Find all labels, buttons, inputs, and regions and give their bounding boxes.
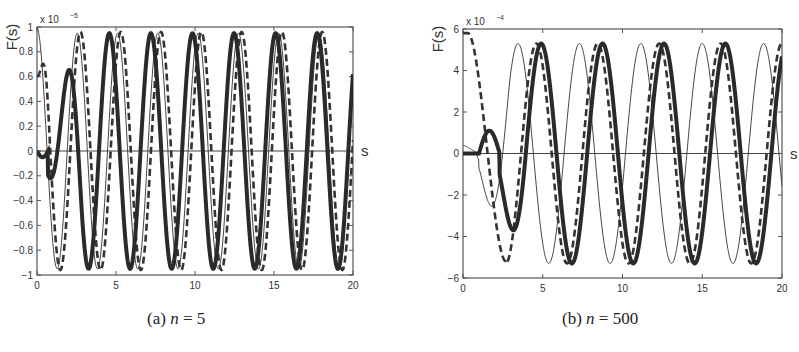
- y-multiplier: x 10: [40, 14, 59, 25]
- chart-panel-a: 05101520−1−0.8−0.6−0.4−0.200.20.40.60.81…: [0, 0, 400, 300]
- x-tick-label: 0: [460, 283, 466, 294]
- y-exponent: −5: [70, 12, 78, 19]
- y-tick-label: −0.2: [13, 170, 33, 181]
- plot-a: 05101520−1−0.8−0.6−0.4−0.200.20.40.60.81…: [0, 0, 400, 300]
- x-axis-label: s: [361, 142, 369, 159]
- y-tick-label: 0.2: [19, 121, 33, 132]
- x-tick-label: 15: [697, 283, 709, 294]
- y-tick-label: −1: [22, 270, 34, 281]
- y-tick-label: 6: [453, 24, 459, 35]
- caption-b: (b) n = 500: [562, 309, 638, 329]
- x-tick-label: 20: [776, 283, 788, 294]
- y-tick-label: 1: [27, 22, 33, 33]
- y-tick-label: 0.4: [19, 96, 33, 107]
- y-tick-label: −4: [448, 231, 460, 242]
- y-tick-label: 2: [453, 107, 459, 118]
- y-tick-label: −2: [448, 190, 460, 201]
- y-tick-label: 0.8: [19, 46, 33, 57]
- y-tick-label: −6: [448, 273, 460, 284]
- y-tick-label: −0.4: [13, 195, 33, 206]
- x-tick-label: 15: [268, 280, 280, 291]
- chart-panel-b: 05101520−6−4−20246sF(s)x 10−4: [400, 0, 799, 300]
- x-axis-label: s: [790, 145, 798, 162]
- y-multiplier: x 10: [466, 16, 485, 27]
- x-tick-label: 5: [113, 280, 119, 291]
- y-tick-label: −0.8: [13, 245, 33, 256]
- caption-a: (a) n = 5: [147, 309, 205, 329]
- y-exponent: −4: [496, 14, 504, 21]
- y-tick-label: 0: [27, 146, 33, 157]
- y-axis-label: F(s): [429, 26, 446, 53]
- x-tick-label: 0: [34, 280, 40, 291]
- y-axis-label: F(s): [3, 24, 20, 51]
- y-tick-label: 4: [453, 65, 459, 76]
- x-tick-label: 5: [540, 283, 546, 294]
- x-tick-label: 20: [347, 280, 359, 291]
- plot-b: 05101520−6−4−20246sF(s)x 10−4: [400, 0, 799, 300]
- y-tick-label: 0.6: [19, 71, 33, 82]
- x-tick-label: 10: [189, 280, 201, 291]
- y-tick-label: −0.6: [13, 220, 33, 231]
- y-tick-label: 0: [453, 148, 459, 159]
- x-tick-label: 10: [617, 283, 629, 294]
